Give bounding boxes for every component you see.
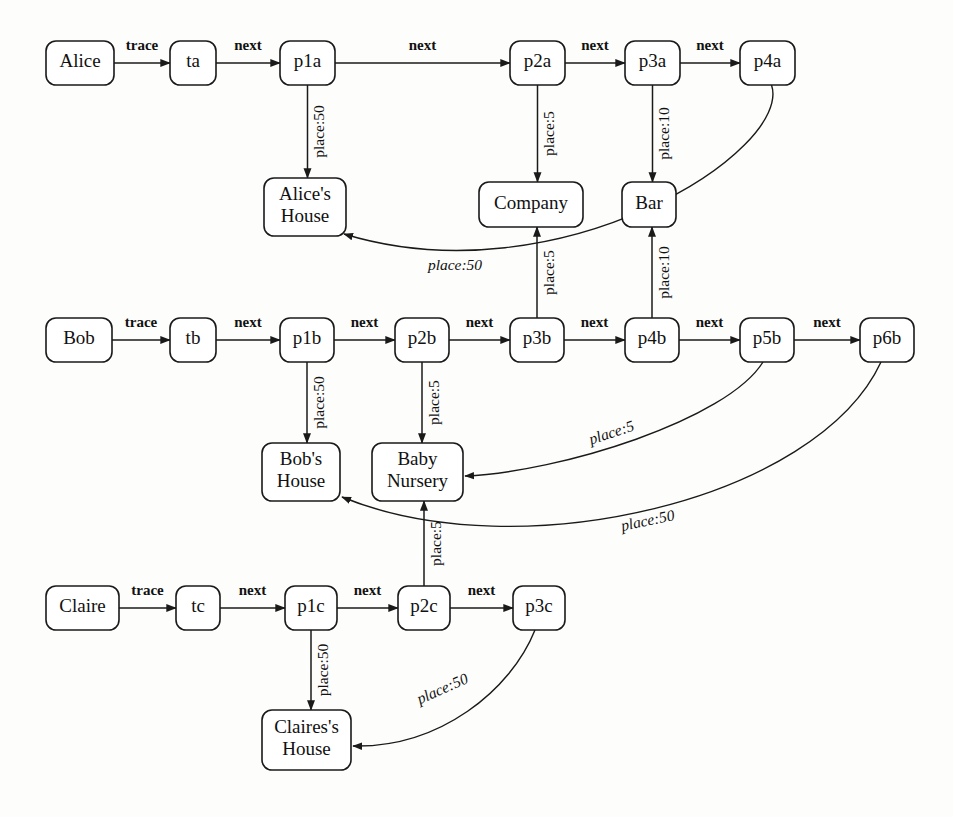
node-label-p3b: p3b [523,327,552,348]
node-p1b[interactable]: p1b [280,318,334,362]
edge-label-p3c-to-claires_house: place:50 [413,669,471,707]
edge-label-p1a-to-p2a: next [409,37,437,53]
edge-label-p1b-to-bobs_house: place:50 [310,376,327,429]
nodes-layer: Alicetap1ap2ap3ap4aAlice'sHouseCompanyBa… [46,41,914,770]
edge-label-p4a-to-alices_house: place:50 [427,256,482,273]
node-label-alice: Alice [59,50,100,71]
edge-label-p2c-to-baby_nursery: place:5 [427,521,444,566]
node-label-p5b: p5b [753,327,782,348]
node-label-p2c: p2c [410,595,437,616]
node-label-bob: Bob [63,327,95,348]
node-label-ta: ta [186,50,200,71]
diagram-canvas: Alicetap1ap2ap3ap4aAlice'sHouseCompanyBa… [0,0,953,817]
node-p3a[interactable]: p3a [625,41,680,85]
node-label-alices_house: House [281,205,330,226]
node-claires_house[interactable]: Claires'sHouse [262,710,351,770]
node-label-p1c: p1c [297,595,324,616]
node-label-tb: tb [186,327,201,348]
edge-label-p4b-to-p5b: next [696,314,724,330]
node-label-claires_house: House [282,738,331,759]
edge-label-p2c-to-p3c: next [468,582,496,598]
edge-label-alice-to-ta: trace [126,37,159,53]
node-baby_nursery[interactable]: BabyNursery [372,443,463,501]
node-bob[interactable]: Bob [46,318,112,362]
node-label-bobs_house: House [277,470,326,491]
edge-label-p4b-to-bar: place:10 [655,246,672,299]
node-label-p3c: p3c [525,595,552,616]
edge-label-tb-to-p1b: next [234,314,262,330]
node-label-baby_nursery: Baby [397,448,438,469]
node-p1a[interactable]: p1a [280,41,335,85]
node-claire[interactable]: Claire [46,586,119,630]
graph-svg: Alicetap1ap2ap3ap4aAlice'sHouseCompanyBa… [0,0,953,817]
node-tb[interactable]: tb [170,318,216,362]
edge-label-p1b-to-p2b: next [351,314,379,330]
node-label-company: Company [494,192,568,213]
edge-label-p3b-to-company: place:5 [540,250,557,295]
edge-label-bob-to-tb: trace [125,314,158,330]
edge-label-claire-to-tc: trace [131,582,164,598]
edge-label-p3b-to-p4b: next [581,314,609,330]
node-bar[interactable]: Bar [622,182,676,227]
node-label-tc: tc [191,595,205,616]
node-label-claire: Claire [59,595,105,616]
node-p3c[interactable]: p3c [513,586,565,630]
node-p5b[interactable]: p5b [740,318,794,362]
edge-label-p1a-to-alices_house: place:50 [310,105,327,158]
node-label-bar: Bar [635,192,663,213]
edge-p5b-to-baby_nursery [465,362,763,476]
node-label-p6b: p6b [873,327,902,348]
node-tc[interactable]: tc [176,586,220,630]
node-p2a[interactable]: p2a [510,41,565,85]
node-label-p1b: p1b [293,327,322,348]
node-label-p2a: p2a [524,50,552,71]
edge-label-p5b-to-p6b: next [813,314,841,330]
node-alice[interactable]: Alice [46,41,114,85]
node-label-claires_house: Claires's [274,716,339,737]
edge-label-p1c-to-claires_house: place:50 [314,644,331,697]
edge-label-p2a-to-p3a: next [581,37,609,53]
node-p2c[interactable]: p2c [398,586,450,630]
node-ta[interactable]: ta [170,41,216,85]
node-p4b[interactable]: p4b [625,318,679,362]
edge-label-p3a-to-bar: place:10 [655,107,672,160]
node-p4a[interactable]: p4a [740,41,795,85]
node-label-alices_house: Alice's [279,183,331,204]
node-label-p2b: p2b [408,327,437,348]
edge-label-p1c-to-p2c: next [354,582,382,598]
edge-label-p2b-to-p3b: next [466,314,494,330]
edge-label-tc-to-p1c: next [239,582,267,598]
node-label-bobs_house: Bob's [280,448,323,469]
node-p1c[interactable]: p1c [285,586,337,630]
edge-label-p2b-to-baby_nursery: place:5 [425,380,442,425]
node-p2b[interactable]: p2b [395,318,449,362]
node-label-p4a: p4a [754,50,782,71]
edges-layer [112,63,881,746]
node-p6b[interactable]: p6b [860,318,914,362]
edge-label-p5b-to-baby_nursery: place:5 [586,417,637,448]
edge-labels-layer: tracenextnextnextnextplace:50place:5plac… [125,37,841,707]
node-label-baby_nursery: Nursery [387,470,449,491]
node-label-p4b: p4b [638,327,667,348]
node-alices_house[interactable]: Alice'sHouse [264,178,346,236]
node-bobs_house[interactable]: Bob'sHouse [262,443,340,501]
edge-label-p3a-to-p4a: next [696,37,724,53]
node-company[interactable]: Company [479,182,583,227]
edge-label-ta-to-p1a: next [234,37,262,53]
edge-label-p2a-to-company: place:5 [540,111,557,156]
node-p3b[interactable]: p3b [510,318,564,362]
node-label-p1a: p1a [294,50,322,71]
node-label-p3a: p3a [639,50,667,71]
